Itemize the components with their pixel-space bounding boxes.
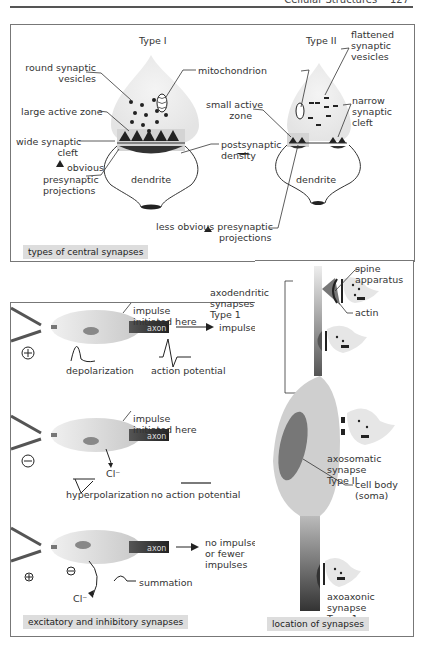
location-illustration [255,261,413,636]
label-flattened-vesicles: flattenedsynapticvesicles [351,29,394,62]
label-chloride-1: Cl⁻ [106,468,120,479]
panel-location-of-synapses: spineapparatus actin axodendriticsynapse… [255,260,414,637]
label-small-active-zone: small activezone [206,99,252,121]
caption-types-of-synapses: types of central synapses [23,245,148,259]
excitatory-inhibitory-illustration [11,303,256,636]
label-large-active-zone: large active zone [21,106,103,117]
label-hyperpolarization: hyperpolarization [66,489,149,500]
label-axodendritic: axodendriticsynapsesType 1 [210,287,269,320]
caption-location-of-synapses: location of synapses [267,617,369,631]
label-dendrite-2: dendrite [296,174,336,185]
panel-types-of-synapses: Type I Type II round synapticvesicles mi… [10,24,415,262]
label-less-obvious-projections-2: projections [219,232,271,243]
panel-excitatory-inhibitory: impulseinitiated here axon impulse depol… [10,302,257,637]
label-no-action-potential: no action potential [151,489,240,500]
label-impulse-output: impulse [219,322,256,333]
header-rule [10,6,413,8]
label-chloride-2: Cl⁻ [73,593,87,604]
label-depolarization: depolarization [66,365,134,376]
label-no-impulse: no impulseor fewerimpulses [205,537,257,570]
page-number: 127 [390,0,409,5]
label-postsynaptic-density: postsynapticdensity [221,139,282,161]
caption-excitatory-inhibitory: excitatory and inhibitory synapses [23,615,188,629]
label-obvious-projections: obvious [67,162,104,173]
type2-title: Type II [306,35,336,46]
label-summation: summation [139,577,193,588]
type1-title: Type I [139,35,167,46]
axon-label-2: axon [147,431,166,442]
label-narrow-cleft: narrowsynapticcleft [352,95,392,128]
label-mitochondrion: mitochondrion [198,65,267,76]
label-wide-cleft: wide synapticcleft [16,136,78,158]
axon-label-1: axon [147,323,166,334]
label-obvious-projections-2: presynapticprojections [43,174,99,196]
label-round-vesicles: round synapticvesicles [16,62,96,84]
label-less-obvious-projections: less obvious presynaptic [156,221,273,232]
running-header: Cellular Structures 127 [284,0,409,5]
running-title: Cellular Structures [284,0,377,5]
label-actin: actin [355,307,378,318]
label-spine-apparatus: spineapparatus [355,263,403,285]
axon-label-3: axon [147,543,166,554]
label-cell-body: cell body(soma) [355,479,398,501]
label-dendrite-1: dendrite [131,174,171,185]
label-action-potential: action potential [151,365,226,376]
